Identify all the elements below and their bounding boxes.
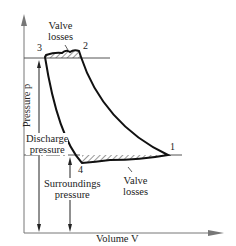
- point-4-label: 4: [78, 164, 83, 175]
- y-axis-label: Pressure p: [21, 76, 32, 136]
- surroundings-pressure-label: Surroundings pressure: [44, 178, 101, 200]
- x-axis-label: Volume V: [96, 233, 139, 244]
- valve-losses-top-label: Valve losses: [48, 20, 73, 42]
- discharge-pressure-label: Discharge pressure: [26, 133, 68, 155]
- point-3-label: 3: [37, 42, 42, 53]
- point-2-label: 2: [83, 40, 88, 51]
- point-1-label: 1: [170, 141, 175, 152]
- pv-diagram: [0, 0, 236, 246]
- valve-losses-bottom-label: Valve losses: [123, 175, 148, 197]
